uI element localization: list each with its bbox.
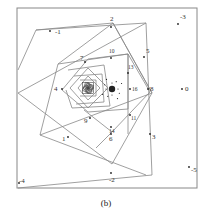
point-marker <box>143 56 145 58</box>
cluster-point <box>116 81 117 82</box>
point-label: 11 <box>131 115 137 121</box>
point-label: 9 <box>84 117 88 125</box>
point-marker <box>110 26 112 28</box>
cluster-point <box>106 79 107 80</box>
point-label: 4 <box>54 85 58 93</box>
point-label: 2 <box>110 15 114 23</box>
point-marker <box>188 166 190 168</box>
spiral-center-dot <box>87 87 89 89</box>
point-label: 16 <box>132 86 138 92</box>
point-label: 13 <box>128 64 134 70</box>
point-label: 5 <box>146 47 150 55</box>
cluster-point <box>111 94 112 95</box>
cluster-point <box>117 98 118 99</box>
cluster-core <box>109 86 115 92</box>
point-marker <box>67 136 69 138</box>
point-label: -3 <box>180 13 186 21</box>
point-label: 10 <box>109 48 115 54</box>
point-marker <box>110 57 112 59</box>
spiral-diagram: -12-35710134801691411613-2-5-4 <box>0 0 212 200</box>
point-marker <box>84 61 86 63</box>
point-labels: -12-35710134801691411613-2-5-4 <box>18 13 197 185</box>
point-label: -2 <box>109 176 115 184</box>
cluster-point <box>107 96 108 97</box>
cluster-point <box>102 94 103 95</box>
figure-caption: (b) <box>0 198 212 208</box>
point-marker <box>61 88 63 90</box>
point-marker <box>127 72 129 74</box>
point-marker <box>149 133 151 135</box>
point-label: 0 <box>185 85 189 93</box>
cluster-point <box>119 93 120 94</box>
point-label: 6 <box>109 135 113 143</box>
point-label: 3 <box>152 133 156 141</box>
point-label: -4 <box>19 177 25 185</box>
diagram-frame <box>17 8 197 188</box>
point-marker <box>110 172 112 174</box>
point-marker <box>147 88 149 90</box>
cluster-point <box>105 88 106 89</box>
point-label: -5 <box>191 166 197 174</box>
point-label: -1 <box>55 28 61 36</box>
polygon-edge <box>62 54 128 90</box>
point-marker <box>181 88 183 90</box>
cluster-point <box>117 88 118 89</box>
point-marker <box>89 117 91 119</box>
point-marker <box>177 23 179 25</box>
point-marker <box>129 88 131 90</box>
polygon-edge <box>18 23 152 188</box>
point-label: 8 <box>150 85 154 93</box>
point-label: 1 <box>62 135 66 143</box>
point-label: 7 <box>80 54 84 62</box>
point-label: 14 <box>109 128 115 134</box>
cluster-point <box>111 82 112 83</box>
cluster-point <box>121 83 122 84</box>
dense-point-cluster <box>102 79 122 99</box>
nested-polygons <box>18 23 152 188</box>
cluster-point <box>104 84 105 85</box>
point-marker <box>49 30 51 32</box>
